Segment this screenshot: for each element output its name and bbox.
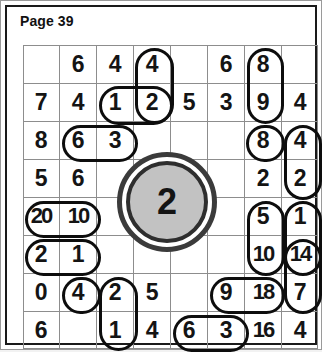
grid-cell xyxy=(23,45,59,83)
grid-cell: 2 xyxy=(282,159,318,197)
grid-cell: 6 xyxy=(23,311,59,349)
grid-cell: 1 xyxy=(60,235,96,273)
grid-cell: 4 xyxy=(60,273,96,311)
grid-cell: 10 xyxy=(60,197,96,235)
grid-cell: 8 xyxy=(245,121,281,159)
grid-cell: 4 xyxy=(60,83,96,121)
grid-cell: 16 xyxy=(245,311,281,349)
grid-cell: 4 xyxy=(97,45,133,83)
grid-cell: 14 xyxy=(282,235,318,273)
grid-cell: 4 xyxy=(282,83,318,121)
grid-cell: 5 xyxy=(171,83,207,121)
grid-cell: 2 xyxy=(134,83,170,121)
grid-cell: 2 xyxy=(245,159,281,197)
grid-cell: 0 xyxy=(23,273,59,311)
grid-cell: 10 xyxy=(245,235,281,273)
grid-cell: 4 xyxy=(282,121,318,159)
grid-cell: 6 xyxy=(60,159,96,197)
grid-cell xyxy=(171,273,207,311)
grid-cell: 8 xyxy=(23,121,59,159)
grid-cell: 3 xyxy=(208,83,244,121)
grid-cell: 20 xyxy=(23,197,59,235)
grid-cell: 6 xyxy=(208,45,244,83)
grid-cell: 2 xyxy=(23,235,59,273)
grid-cell: 1 xyxy=(97,83,133,121)
grid-cell: 5 xyxy=(134,273,170,311)
grid-cell: 6 xyxy=(171,311,207,349)
grid-cell: 9 xyxy=(245,83,281,121)
grid-cell xyxy=(282,45,318,83)
grid-cell xyxy=(171,45,207,83)
grid-cell: 6 xyxy=(60,45,96,83)
grid-cell: 8 xyxy=(245,45,281,83)
grid-cell: 18 xyxy=(245,273,281,311)
number-grid: 6 4 4 6 8 7 4 1 2 5 3 9 4 8 6 3 8 4 xyxy=(23,45,318,349)
page-frame: Page 39 xyxy=(5,5,317,345)
page-title: Page 39 xyxy=(20,13,74,29)
grid-cell: 5 xyxy=(23,159,59,197)
grid-cell: 3 xyxy=(208,311,244,349)
grid-cell: 7 xyxy=(23,83,59,121)
grid-cell: 4 xyxy=(134,45,170,83)
grid-cell: 4 xyxy=(282,311,318,349)
center-disc: 2 xyxy=(117,152,217,252)
grid-cell: 4 xyxy=(134,311,170,349)
grid-cell: 7 xyxy=(282,273,318,311)
grid-cell: 2 xyxy=(97,273,133,311)
grid-cell: 5 xyxy=(245,197,281,235)
grid-cell xyxy=(60,311,96,349)
grid-cell: 9 xyxy=(208,273,244,311)
disc-value: 2 xyxy=(117,152,217,252)
grid-cell: 6 xyxy=(60,121,96,159)
grid-cell: 1 xyxy=(282,197,318,235)
grid-cell: 1 xyxy=(97,311,133,349)
